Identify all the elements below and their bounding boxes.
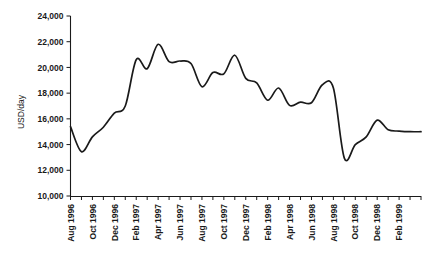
x-tick-label: Feb 1999 [394,204,404,241]
y-tick-label: 16,000 [38,114,64,124]
line-chart: 10,00012,00014,00016,00018,00020,00022,0… [0,0,439,264]
y-tick-labels: 10,00012,00014,00016,00018,00020,00022,0… [38,11,64,201]
x-tick-label: Oct 1996 [88,204,98,240]
x-axis: Aug 1996Oct 1996Dec 1996Feb 1997Apr 1997… [66,196,421,242]
x-tick-labels: Aug 1996Oct 1996Dec 1996Feb 1997Apr 1997… [66,204,405,242]
x-tick-label: Apr 1998 [285,204,295,240]
y-tick-marks [67,16,71,196]
y-tick-label: 10,000 [38,191,64,201]
y-tick-label: 18,000 [38,88,64,98]
x-tick-label: Oct 1998 [350,204,360,240]
x-tick-label: Oct 1997 [219,204,229,240]
x-tick-label: Dec 1998 [372,204,382,241]
x-tick-label: Feb 1998 [263,204,273,241]
y-tick-label: 24,000 [38,11,64,21]
y-tick-label: 20,000 [38,63,64,73]
y-tick-label: 14,000 [38,140,64,150]
x-tick-label: Dec 1997 [241,204,251,241]
x-tick-label: Aug 1996 [66,204,76,242]
x-tick-label: Apr 1997 [153,204,163,240]
x-tick-label: Jun 1997 [175,204,185,241]
y-tick-label: 12,000 [38,165,64,175]
y-axis: 10,00012,00014,00016,00018,00020,00022,0… [16,11,71,201]
x-tick-label: Feb 1997 [131,204,141,241]
y-axis-title: USD/day [16,94,26,129]
y-tick-label: 22,000 [38,37,64,47]
x-tick-label: Dec 1996 [110,204,120,241]
x-tick-label: Aug 1998 [329,204,339,242]
x-tick-label: Aug 1997 [197,204,207,242]
data-series-line [71,44,422,160]
chart-container: 10,00012,00014,00016,00018,00020,00022,0… [0,0,439,264]
x-tick-label: Jun 1998 [307,204,317,241]
